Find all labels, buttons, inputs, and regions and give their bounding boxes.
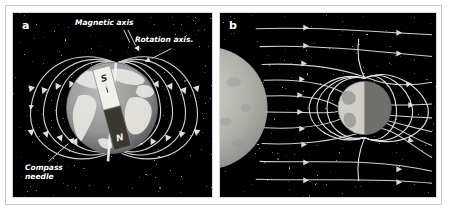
callout-compass-needle: Compass needle	[25, 163, 77, 181]
callout-magnetic-axis: Magnetic axis	[75, 18, 133, 27]
figure-root: S N a Magnetic axis Rotation axis. Compa…	[0, 0, 449, 216]
panel-b-graphics	[220, 13, 436, 197]
panel-a-letter: a	[22, 19, 29, 32]
panel-b: b	[219, 12, 437, 198]
panel-a: S N a Magnetic axis Rotation axis. Compa…	[12, 12, 213, 198]
callout-rotation-axis: Rotation axis.	[135, 35, 193, 44]
panel-b-letter: b	[229, 19, 237, 32]
earth-globe-b	[338, 81, 392, 134]
sun	[219, 47, 268, 170]
